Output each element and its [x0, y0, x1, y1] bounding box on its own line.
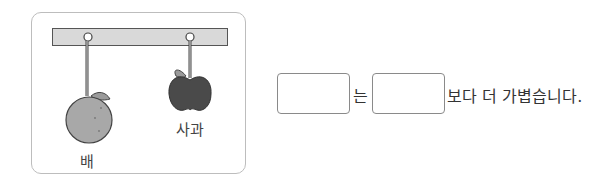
sentence-suffix: 보다 더 가볍습니다. — [447, 83, 582, 107]
apple-hanger — [186, 33, 194, 78]
pear-label: 배 — [80, 150, 94, 171]
particle-text: 는 — [353, 83, 368, 107]
pear-icon — [66, 92, 112, 143]
apple-label: 사과 — [176, 118, 204, 139]
answer-box-1[interactable] — [277, 73, 350, 114]
answer-box-2[interactable] — [372, 73, 445, 114]
hanging-fruits-illustration — [0, 0, 260, 187]
pear-hanger — [84, 33, 92, 96]
